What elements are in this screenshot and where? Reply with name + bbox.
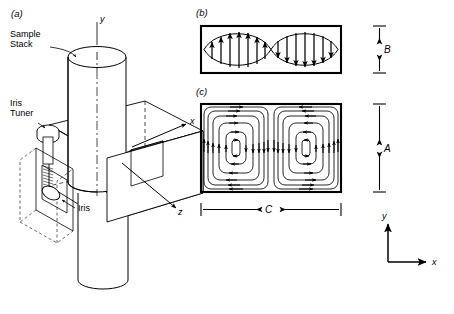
figure-canvas: y x z (0, 0, 454, 314)
panel-b-group: B (201, 26, 391, 73)
panel-b-tag: (b) (196, 7, 208, 18)
dimension-c-label: C (265, 204, 273, 215)
iris-tuner-label: Iris Tuner (10, 98, 33, 118)
panel-c-tag: (c) (196, 86, 207, 97)
axis-key-x-label: x (431, 257, 437, 267)
iris-tuner-assembly (37, 125, 59, 164)
left-lobe-envelope (204, 34, 271, 66)
axis-key: y x (381, 211, 437, 267)
panel-a-group: y x z (20, 14, 203, 289)
dimension-a-label: A (383, 143, 391, 154)
axis-x-label: x (189, 116, 195, 126)
dimension-b-label: B (384, 44, 391, 55)
figure-root: y x z (0, 0, 454, 314)
axis-key-y-label: y (381, 211, 387, 221)
panel-a-tag: (a) (11, 8, 23, 19)
axis-y-label: y (99, 14, 105, 24)
left-contour-cell (204, 107, 268, 189)
sample-stack-label: Sample Stack (10, 29, 41, 49)
panel-c-group: A C (201, 104, 391, 216)
iris-label: Iris (78, 203, 90, 213)
panel-c-frame (201, 104, 341, 192)
axis-z-label: z (177, 207, 183, 217)
right-contour-cell (274, 107, 338, 189)
